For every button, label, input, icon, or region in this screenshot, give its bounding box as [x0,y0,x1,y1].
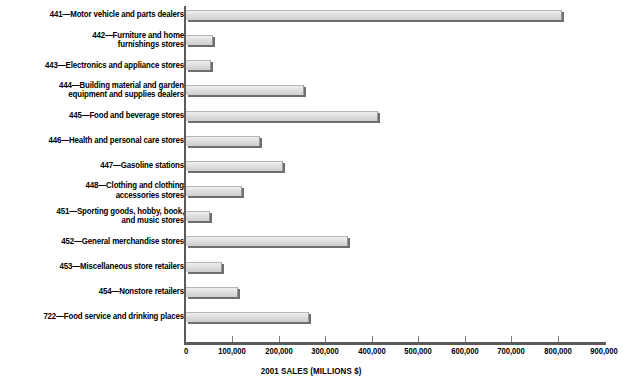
plot-area [186,4,604,342]
sales-bar-chart: 441—Motor vehicle and parts dealers442—F… [0,0,623,382]
bar-fill [186,236,348,246]
x-axis-tick-label: 400,000 [358,347,386,356]
bar-shadow [188,121,380,123]
bar-shadow-right [242,188,244,198]
bar-shadow-right [238,289,240,299]
bar-shadow-right [309,314,311,324]
bar-fill [186,60,211,70]
bar-fill [186,211,210,221]
category-label: 447—Gasoline stations [15,161,184,171]
category-label: 722—Food service and drinking places [15,312,184,322]
category-label: 445—Food and beverage stores [15,111,184,121]
bar-shadow [188,45,215,47]
x-axis-tick [558,336,559,342]
bar [186,35,215,47]
x-axis-title: 2001 SALES (MILLIONS $) [0,366,623,376]
bar-fill [186,262,222,272]
bar [186,211,212,223]
x-axis-tick [325,336,326,342]
bar-shadow-right [210,213,212,223]
category-label: 452—General merchandise stores [15,237,184,247]
category-label: 442—Furniture and home furnishings store… [15,31,184,50]
bar-shadow [188,246,350,248]
category-label: 441—Motor vehicle and parts dealers [15,10,184,20]
x-axis-line [184,342,606,345]
bar-shadow [188,272,224,274]
category-label: 454—Nonstore retailers [15,287,184,297]
bar-fill [186,287,238,297]
bar-shadow [188,171,285,173]
x-axis-tick-label: 0 [184,347,188,356]
bar-fill [186,136,260,146]
x-axis-tick [511,336,512,342]
bar [186,161,285,173]
bar-fill [186,186,242,196]
bar [186,312,311,324]
bar-fill [186,85,304,95]
bar-shadow [188,221,212,223]
bar-shadow-right [260,138,262,148]
x-axis-tick-label: 700,000 [497,347,525,356]
bar-shadow-right [378,113,380,123]
x-axis-tick [232,336,233,342]
bar-shadow [188,146,262,148]
bar-shadow [188,196,244,198]
x-axis-tick [465,336,466,342]
category-label: 444—Building material and garden equipme… [15,81,184,100]
bar [186,10,564,22]
x-axis-tick-label: 600,000 [451,347,479,356]
bar-shadow-right [304,87,306,97]
bar-fill [186,35,213,45]
bar [186,236,350,248]
bar [186,136,262,148]
bar-shadow-right [562,12,564,22]
x-axis-title-text: 2001 SALES (MILLIONS $) [261,366,362,376]
category-label: 448—Clothing and clothing accessories st… [15,181,184,200]
x-axis-tick-label: 300,000 [312,347,340,356]
bar-shadow [188,95,306,97]
x-axis-tick-label: 900,000 [590,347,618,356]
bar [186,287,240,299]
bar-shadow-right [283,163,285,173]
bar-fill [186,10,562,20]
bar-shadow-right [213,37,215,47]
x-axis-tick-label: 800,000 [544,347,572,356]
x-axis-tick-label: 500,000 [404,347,432,356]
category-label: 451—Sporting goods, hobby, book, and mus… [15,207,184,226]
bar [186,262,224,274]
bar [186,186,244,198]
x-axis-tick [279,336,280,342]
x-axis-tick [372,336,373,342]
bar [186,85,306,97]
bar-shadow [188,297,240,299]
bar-fill [186,111,378,121]
bar-shadow [188,322,311,324]
bar [186,60,213,72]
bar-shadow-right [222,264,224,274]
bar-shadow [188,70,213,72]
category-label: 443—Electronics and appliance stores [15,61,184,71]
bar-shadow-right [211,62,213,72]
category-label: 453—Miscellaneous store retailers [15,262,184,272]
bar-shadow [188,20,564,22]
x-axis-tick-label: 100,000 [219,347,247,356]
x-axis-tick [418,336,419,342]
x-axis-tick-label: 200,000 [265,347,293,356]
bar-shadow-right [348,238,350,248]
bar-fill [186,312,309,322]
bar-fill [186,161,283,171]
category-label: 446—Health and personal care stores [15,136,184,146]
bar [186,111,380,123]
